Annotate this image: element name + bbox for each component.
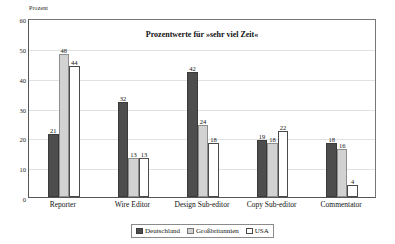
legend-swatch-icon	[246, 228, 253, 234]
bar: 42	[187, 72, 198, 197]
y-axis-tick-label: 10	[20, 166, 27, 173]
bar: 4	[347, 185, 358, 197]
bar-group: 191822	[257, 20, 289, 197]
legend-label: Großbritannien	[196, 227, 239, 236]
bar-value-label: 24	[200, 118, 207, 125]
y-axis-tick-label: 20	[20, 136, 27, 143]
plot-area: 0102030405060 21484432131342241819182218…	[28, 19, 376, 198]
bar-value-label: 18	[210, 136, 217, 143]
bar: 13	[139, 158, 150, 197]
bar-value-label: 13	[130, 151, 137, 158]
x-axis-category-label: Reporter	[50, 200, 76, 210]
y-axis-tick-label: 40	[20, 76, 27, 83]
x-axis-category-label: Copy Sub-editor	[247, 200, 297, 210]
bar-group: 321313	[118, 20, 150, 197]
bar: 21	[48, 134, 59, 197]
bar-value-label: 21	[50, 127, 57, 134]
bar: 16	[337, 149, 348, 197]
legend-label: USA	[255, 227, 269, 236]
bar: 32	[118, 102, 129, 197]
bar: 18	[326, 143, 337, 197]
bar-value-label: 18	[328, 136, 335, 143]
bar-value-label: 48	[61, 47, 68, 54]
chart-title: Prozentwerte für »sehr viel Zeit«	[28, 30, 376, 39]
bar-group: 214844	[48, 20, 80, 197]
legend-item: Deutschland	[136, 227, 180, 236]
y-axis-tick-label: 60	[20, 17, 27, 24]
legend-label: Deutschland	[145, 227, 180, 236]
bar-chart: Prozent 0102030405060 214844321313422418…	[0, 0, 395, 244]
bar-value-label: 18	[269, 136, 276, 143]
x-axis-category-label: Wire Editor	[115, 200, 150, 210]
legend-item: USA	[246, 227, 269, 236]
bar-value-label: 19	[259, 133, 266, 140]
x-axis-category-label: Design Sub-editor	[175, 200, 230, 210]
y-axis-unit-label: Prozent	[29, 5, 48, 11]
bar-group: 18164	[326, 20, 358, 197]
bar-value-label: 32	[120, 95, 127, 102]
bar: 22	[278, 131, 289, 197]
bar: 24	[198, 125, 209, 197]
bar-value-label: 16	[339, 142, 346, 149]
bar-value-label: 44	[71, 59, 78, 66]
bar: 48	[59, 54, 70, 197]
bar: 18	[208, 143, 219, 197]
legend-item: Großbritannien	[187, 227, 239, 236]
bar-value-label: 22	[280, 124, 287, 131]
y-axis-tick-label: 30	[20, 106, 27, 113]
x-axis-category-labels: ReporterWire EditorDesign Sub-editorCopy…	[28, 200, 376, 212]
bar-groups: 21484432131342241819182218164	[29, 20, 375, 197]
bar: 44	[69, 66, 80, 197]
bar: 18	[267, 143, 278, 197]
x-axis-category-label: Commentator	[321, 200, 362, 210]
legend-swatch-icon	[187, 228, 194, 234]
bar: 13	[128, 158, 139, 197]
bar: 19	[257, 140, 268, 197]
y-axis-tick-label: 0	[23, 196, 26, 203]
bar-group: 422418	[187, 20, 219, 197]
bar-value-label: 13	[141, 151, 148, 158]
y-axis-tick-label: 50	[20, 46, 27, 53]
bar-value-label: 42	[189, 65, 196, 72]
bar-value-label: 4	[351, 178, 354, 185]
chart-legend: DeutschlandGroßbritannienUSA	[131, 224, 274, 238]
legend-swatch-icon	[136, 228, 143, 234]
